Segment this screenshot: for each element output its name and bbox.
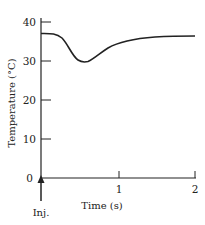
temperature-curve [41, 33, 195, 62]
y-axis-label: Temperature (°C) [6, 58, 17, 147]
y-tick-label: 0 [26, 172, 33, 184]
injection-label: Inj. [33, 207, 50, 218]
temperature-chart: 40 30 20 10 0 1 2 Time (s) Temperature (… [0, 0, 205, 225]
y-tick-label: 20 [23, 94, 36, 106]
y-tick-labels: 40 30 20 10 0 [23, 16, 36, 184]
injection-arrow-icon [38, 175, 45, 201]
y-tick-label: 10 [23, 133, 36, 145]
y-tick-label: 40 [23, 16, 36, 28]
x-tick-labels: 1 2 [116, 183, 199, 195]
x-tick-label: 1 [116, 183, 123, 195]
x-axis-label: Time (s) [81, 200, 122, 211]
y-tick-label: 30 [23, 55, 36, 67]
x-tick-label: 2 [192, 183, 199, 195]
x-ticks [119, 171, 195, 178]
y-ticks [41, 22, 51, 139]
